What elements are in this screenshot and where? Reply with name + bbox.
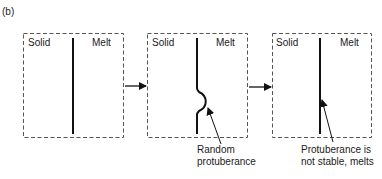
panel-label: (b) xyxy=(2,6,14,17)
stage-3-annotation-line-1: Protuberance is xyxy=(301,144,371,155)
stage-2-melt-label: Melt xyxy=(216,37,235,48)
stage-3-pointer-arrow xyxy=(322,100,333,142)
stage-3-melt-label: Melt xyxy=(340,37,359,48)
stage-2-annotation-line-1: Random xyxy=(197,144,235,155)
solidification-diagram: (b) Solid Melt Solid Melt Random protube… xyxy=(0,0,382,179)
stage-3-annotation-line-2: not stable, melts xyxy=(301,156,374,167)
stage-1: Solid Melt xyxy=(24,34,124,138)
stage-2: Solid Melt Random protuberance xyxy=(148,34,257,168)
stage-3: Solid Melt Protuberance is not stable, m… xyxy=(273,34,374,168)
stage-1-solid-label: Solid xyxy=(28,37,50,48)
stage-1-melt-label: Melt xyxy=(92,37,111,48)
stage-2-protuberance-interface xyxy=(197,38,206,134)
stage-2-annotation-line-2: protuberance xyxy=(197,156,256,167)
stage-2-solid-label: Solid xyxy=(152,37,174,48)
stage-3-solid-label: Solid xyxy=(276,37,298,48)
stage-3-box xyxy=(273,34,372,138)
stage-2-pointer-arrow xyxy=(208,108,221,144)
